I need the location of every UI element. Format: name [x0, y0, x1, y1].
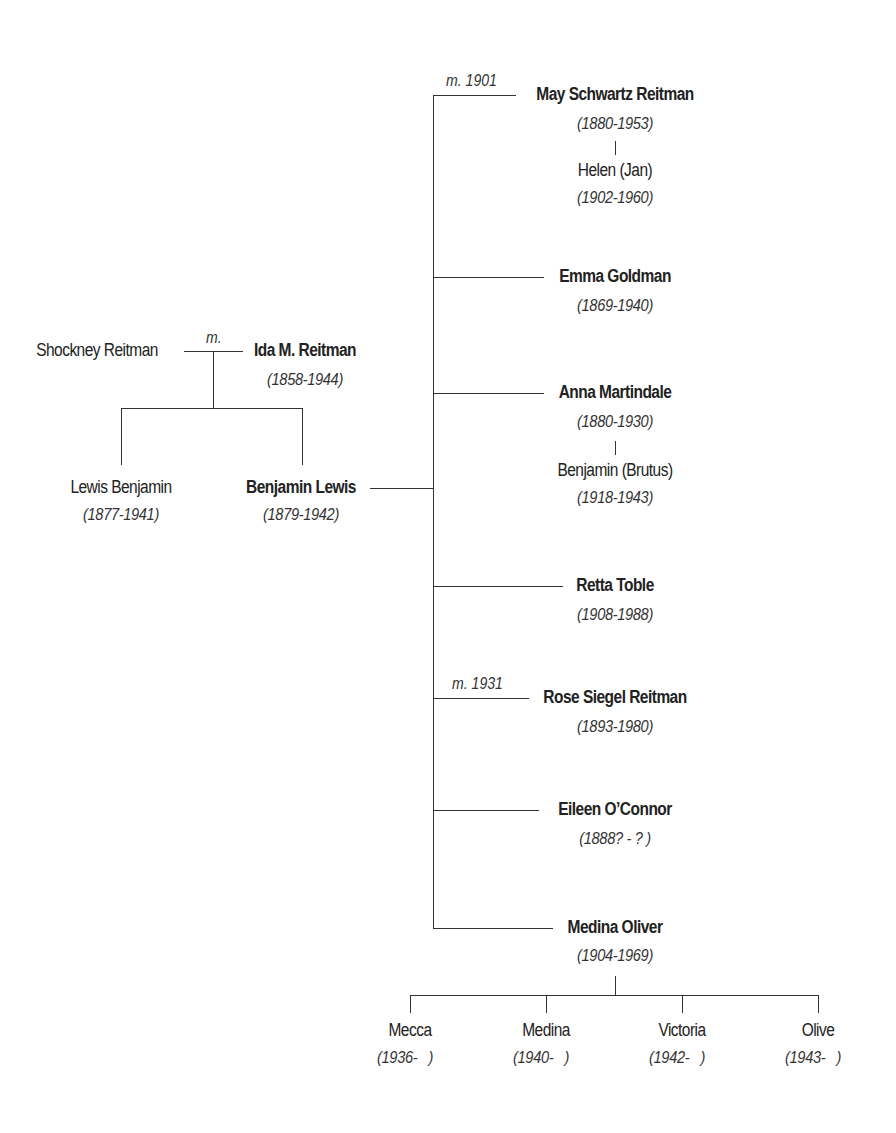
branch-emma-goldman: [433, 277, 544, 278]
person-anna-martindale: Anna Martindale: [559, 382, 672, 403]
child-line-helen: [615, 141, 616, 155]
descent-line-benjamin-lewis: [302, 408, 303, 465]
person-mecca: Mecca: [388, 1020, 431, 1041]
child-line-mecca: [410, 995, 411, 1013]
dates-victoria: (1942- ): [649, 1048, 705, 1068]
person-ida-m-reitman: Ida M. Reitman: [254, 340, 356, 361]
person-victoria: Victoria: [658, 1020, 705, 1041]
person-shockney-reitman: Shockney Reitman: [36, 340, 158, 361]
branch-anna-martindale: [433, 393, 544, 394]
person-benjamin-brutus: Benjamin (Brutus): [557, 460, 672, 481]
dates-eileen-oconnor: (1888? - ? ): [579, 829, 650, 849]
dates-benjamin-lewis: (1879-1942): [263, 505, 339, 525]
child-line-benjamin-brutus: [615, 441, 616, 455]
children-bar-medina-oliver: [410, 995, 819, 996]
person-benjamin-lewis: Benjamin Lewis: [246, 477, 356, 498]
branch-medina-oliver: [433, 928, 553, 929]
person-medina: Medina: [522, 1020, 570, 1041]
branch-eileen-oconnor: [433, 810, 539, 811]
descent-line-lewis-benjamin: [121, 408, 122, 465]
dates-retta-toble: (1908-1988): [577, 605, 653, 625]
dates-medina-oliver: (1904-1969): [577, 946, 653, 966]
marriage-label-parents: m.: [206, 329, 222, 347]
dates-benjamin-brutus: (1918-1943): [577, 488, 653, 508]
descent-line-medina-oliver: [615, 976, 616, 995]
branch-retta-toble: [433, 586, 563, 587]
person-rose-siegel-reitman: Rose Siegel Reitman: [543, 687, 686, 708]
person-may-schwartz-reitman: May Schwartz Reitman: [536, 84, 693, 105]
connector-benjamin-lewis: [370, 488, 434, 489]
person-helen-jan: Helen (Jan): [578, 160, 652, 181]
dates-medina: (1940- ): [513, 1048, 569, 1068]
dates-lewis-benjamin: (1877-1941): [83, 505, 159, 525]
person-medina-oliver: Medina Oliver: [568, 917, 663, 938]
dates-mecca: (1936- ): [377, 1048, 433, 1068]
marriage-label-rose: m. 1931: [452, 675, 503, 693]
child-line-olive: [818, 995, 819, 1013]
branch-rose-siegel-reitman: [433, 698, 529, 699]
dates-olive: (1943- ): [785, 1048, 841, 1068]
dates-emma-goldman: (1869-1940): [577, 296, 653, 316]
dates-anna-martindale: (1880-1930): [577, 412, 653, 432]
child-line-medina: [546, 995, 547, 1013]
partners-spine: [433, 95, 434, 929]
person-eileen-oconnor: Eileen O’Connor: [558, 799, 672, 820]
branch-may-schwartz-reitman: [433, 95, 516, 96]
person-lewis-benjamin: Lewis Benjamin: [70, 477, 171, 498]
person-retta-toble: Retta Toble: [576, 575, 653, 596]
child-line-victoria: [682, 995, 683, 1013]
person-olive: Olive: [802, 1020, 835, 1041]
dates-ida-m-reitman: (1858-1944): [267, 370, 343, 390]
dates-may-schwartz-reitman: (1880-1953): [577, 114, 653, 134]
descent-line-parents: [213, 351, 214, 408]
person-emma-goldman: Emma Goldman: [559, 266, 671, 287]
marriage-label-may: m. 1901: [446, 72, 497, 90]
sibling-bar: [121, 408, 303, 409]
dates-helen-jan: (1902-1960): [577, 188, 653, 208]
dates-rose-siegel-reitman: (1893-1980): [577, 717, 653, 737]
